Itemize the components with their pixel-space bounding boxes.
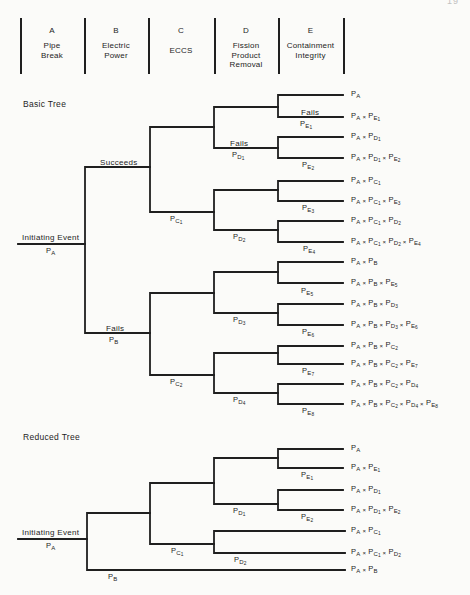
basic-branch-fails-label: Fails bbox=[106, 324, 124, 333]
reduced-outcome-3: PA×PD1 bbox=[351, 484, 381, 493]
basic-outcome-6: PA×PC1×PE3 bbox=[351, 195, 401, 204]
basic-outcome-14: PA×PB×PC2×PE7 bbox=[351, 358, 418, 367]
column-c-letter: C bbox=[149, 26, 213, 35]
reduced-branch-pc1-probability: PC1 bbox=[171, 546, 183, 555]
basic-outcome-8: PA×PC1×PD2×PE4 bbox=[351, 236, 421, 245]
column-e-letter: E bbox=[279, 26, 342, 35]
reduced-outcome-1: PA bbox=[351, 443, 360, 452]
reduced-outcome-2: PA×PE1 bbox=[351, 462, 380, 471]
column-d-letter: D bbox=[215, 26, 277, 35]
basic-outcome-13: PA×PB×PC2 bbox=[351, 340, 398, 349]
basic-branch-pc2-probability: PC2 bbox=[170, 377, 182, 386]
reduced-tree-title: Reduced Tree bbox=[23, 432, 80, 442]
reduced-branch-pb-probability: PB bbox=[108, 572, 117, 581]
reduced-branch-pe1-probability: PE1 bbox=[301, 470, 313, 479]
column-divider bbox=[343, 18, 345, 74]
basic-branch-pe3-probability: PE3 bbox=[302, 203, 314, 212]
reduced-branch-pd2-probability: PD2 bbox=[234, 555, 246, 564]
basic-branch-pe4-probability: PE4 bbox=[303, 244, 315, 253]
reduced-branch-pe2-probability: PE2 bbox=[301, 512, 313, 521]
reduced-outcome-4: PA×PD1×PE2 bbox=[351, 504, 401, 513]
basic-branch-pd1-probability: PD1 bbox=[232, 150, 244, 159]
reduced-outcome-7: PA×PB bbox=[351, 564, 378, 573]
basic-branch-pd3-probability: PD3 bbox=[233, 315, 245, 324]
column-d-name: Fission Product Removal bbox=[215, 41, 277, 70]
basic-initiating-event-label: Initiating Event bbox=[22, 233, 79, 242]
basic-branch-pc1-probability: PC1 bbox=[170, 214, 182, 223]
column-b-letter: B bbox=[85, 26, 147, 35]
column-a-letter: A bbox=[21, 26, 83, 35]
basic-outcome-10: PA×PB×PE5 bbox=[351, 277, 398, 286]
reduced-initiating-event-label: Initiating Event bbox=[22, 528, 79, 537]
basic-branch-e1-fails-label: Fails bbox=[301, 108, 319, 117]
reduced-branch-pd1-probability: PD1 bbox=[233, 506, 245, 515]
basic-outcome-11: PA×PB×PD3 bbox=[351, 298, 398, 307]
basic-tree-lines bbox=[18, 95, 343, 404]
basic-branch-pe1-probability: PE1 bbox=[300, 119, 312, 128]
basic-outcome-16: PA×PB×PC2×PD4×PE8 bbox=[351, 398, 438, 407]
column-a-name: Pipe Break bbox=[21, 41, 83, 60]
basic-outcome-5: PA×PC1 bbox=[351, 175, 381, 184]
basic-outcome-4: PA×PD1×PE2 bbox=[351, 152, 401, 161]
column-e-name: Containment Integrity bbox=[279, 41, 342, 60]
basic-branch-pd2-probability: PD2 bbox=[233, 232, 245, 241]
reduced-outcome-6: PA×PC1×PD2 bbox=[351, 547, 401, 556]
basic-branch-pe6-probability: PE6 bbox=[302, 327, 314, 336]
reduced-outcome-5: PA×PC1 bbox=[351, 525, 381, 534]
basic-initiating-event-probability: PA bbox=[46, 246, 55, 255]
basic-branch-pd4-probability: PD4 bbox=[233, 395, 245, 404]
basic-tree-title: Basic Tree bbox=[23, 99, 66, 109]
column-c-name: ECCS bbox=[149, 46, 213, 56]
scanned-page: 19 bbox=[0, 0, 470, 595]
basic-outcome-1: PA bbox=[351, 89, 360, 98]
basic-branch-pe8-probability: PE8 bbox=[302, 406, 314, 415]
basic-outcome-7: PA×PC1×PD2 bbox=[351, 215, 401, 224]
basic-branch-pb-probability: PB bbox=[109, 335, 118, 344]
column-b-name: Electric Power bbox=[85, 41, 147, 60]
basic-outcome-9: PA×PB bbox=[351, 256, 378, 265]
basic-branch-succeeds-label: Succeeds bbox=[100, 158, 138, 167]
basic-outcome-3: PA×PD1 bbox=[351, 131, 381, 140]
basic-branch-d1-fails-label: Fails bbox=[230, 139, 248, 148]
basic-branch-pe7-probability: PE7 bbox=[302, 366, 314, 375]
basic-branch-pe2-probability: PE2 bbox=[302, 160, 314, 169]
basic-outcome-15: PA×PB×PC2×PD4 bbox=[351, 378, 418, 387]
basic-outcome-12: PA×PB×PD3×PE6 bbox=[351, 319, 418, 328]
reduced-initiating-event-probability: PA bbox=[46, 541, 55, 550]
basic-branch-pe5-probability: PE5 bbox=[301, 286, 313, 295]
basic-outcome-2: PA×PE1 bbox=[351, 111, 380, 120]
